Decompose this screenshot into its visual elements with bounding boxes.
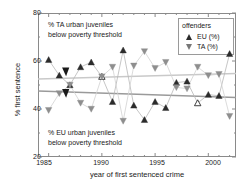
annotation-ta-poverty: % TA urban juveniles below poverty thres… xyxy=(48,20,122,39)
x-tick-label-1995: 1995 xyxy=(149,159,165,167)
annotation-eu-poverty: % EU urban juveniles below poverty thres… xyxy=(48,128,122,147)
y-tick-label-80: 80 xyxy=(33,9,41,17)
x-tick-label-1985: 1985 xyxy=(36,159,52,167)
legend-entry-ta[interactable]: TA (%) xyxy=(182,41,230,51)
annotation-eu-line2: below poverty threshold xyxy=(48,138,122,148)
annotation-eu-line1: % EU urban juveniles xyxy=(48,128,122,138)
chart-figure: 80 60 40 20 1985 1990 1995 2000 year of … xyxy=(0,0,250,188)
legend-label-ta: TA (%) xyxy=(197,42,218,51)
y-axis-title: % first sentence xyxy=(13,35,22,145)
legend-title: offenders xyxy=(182,21,230,30)
triangle-down-icon xyxy=(186,43,193,50)
annotation-ta-line2: below poverty threshold xyxy=(48,30,122,40)
x-tick-label-2000: 2000 xyxy=(205,159,221,167)
x-axis-title: year of first sentenced crime xyxy=(38,170,236,179)
y-tick-label-60: 60 xyxy=(33,57,41,65)
annotation-ta-line1: % TA urban juveniles xyxy=(48,20,122,30)
legend-label-eu: EU (%) xyxy=(197,32,220,41)
x-tick-label-1990: 1990 xyxy=(93,159,109,167)
y-tick-label-40: 40 xyxy=(33,105,41,113)
legend-entry-eu[interactable]: EU (%) xyxy=(182,31,230,41)
triangle-up-icon xyxy=(186,33,193,40)
legend: offenders EU (%) TA (%) xyxy=(178,18,234,55)
